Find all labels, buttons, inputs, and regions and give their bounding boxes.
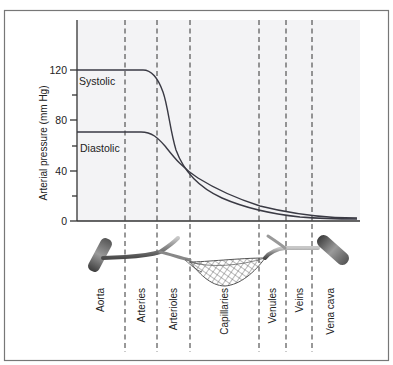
y-tick-0: 0 bbox=[61, 215, 67, 227]
plot-area bbox=[77, 20, 360, 221]
region-label-arteries: Arteries bbox=[136, 288, 147, 322]
y-tick-120: 120 bbox=[49, 64, 67, 76]
region-label-vena-cava: Vena cava bbox=[325, 288, 336, 335]
systolic-label: Systolic bbox=[79, 75, 115, 87]
diastolic-label: Diastolic bbox=[80, 142, 120, 154]
region-label-venules: Venules bbox=[267, 288, 278, 324]
region-label-arterioles: Arterioles bbox=[168, 288, 179, 330]
y-tick-40: 40 bbox=[55, 165, 67, 177]
y-axis-title: Arterial pressure (mm Hg) bbox=[38, 85, 49, 200]
region-label-aorta: Aorta bbox=[95, 288, 106, 312]
region-label-capillaries: Capillaries bbox=[219, 288, 230, 335]
y-tick-80: 80 bbox=[55, 114, 67, 126]
blood-pressure-diagram: 120 80 40 0 Arterial pressure (mm Hg) Sy… bbox=[0, 0, 393, 365]
region-label-veins: Veins bbox=[294, 288, 305, 312]
